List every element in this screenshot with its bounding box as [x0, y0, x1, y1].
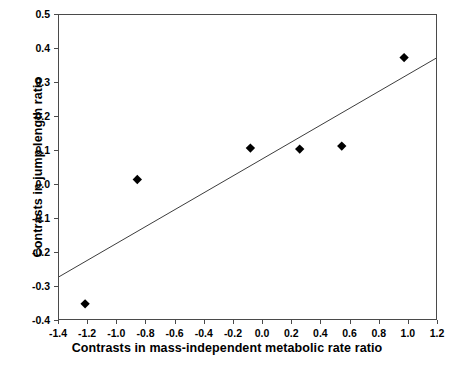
x-tick-mark [204, 320, 205, 324]
y-tick-label: 0.5 [8, 9, 50, 20]
x-tick-label: 0.6 [342, 328, 357, 339]
x-tick-mark [145, 320, 146, 324]
x-tick-mark [175, 320, 176, 324]
data-points [80, 53, 408, 309]
x-tick-label: -0.4 [195, 328, 213, 339]
x-tick-label: 0.4 [313, 328, 328, 339]
x-tick-mark [437, 320, 438, 324]
x-tick-mark [350, 320, 351, 324]
y-tick-mark [54, 14, 58, 15]
y-tick-mark [54, 48, 58, 49]
x-tick-label: -1.4 [49, 328, 67, 339]
scatter-chart: -0.4-0.3-0.2-0.10.00.10.20.30.40.5 -1.4-… [0, 0, 454, 365]
y-tick-mark [54, 252, 58, 253]
x-tick-mark [262, 320, 263, 324]
y-axis-title: Contrasts in jump length ratio [31, 47, 45, 287]
data-point [399, 53, 408, 62]
data-point [80, 299, 89, 308]
trendline [59, 58, 436, 277]
x-tick-mark [379, 320, 380, 324]
x-tick-mark [233, 320, 234, 324]
x-tick-label: 1.0 [401, 328, 416, 339]
x-tick-mark [87, 320, 88, 324]
data-point [295, 144, 304, 153]
x-tick-label: 0.0 [255, 328, 270, 339]
y-tick-label: -0.4 [8, 315, 50, 326]
y-tick-mark [54, 150, 58, 151]
plot-area [58, 14, 437, 320]
x-tick-label: -1.2 [78, 328, 96, 339]
x-tick-label: 1.2 [430, 328, 445, 339]
y-tick-mark [54, 184, 58, 185]
y-tick-mark [54, 82, 58, 83]
plot-canvas [59, 15, 436, 319]
data-point [133, 175, 142, 184]
x-tick-label: -0.8 [136, 328, 154, 339]
y-tick-mark [54, 116, 58, 117]
x-tick-mark [58, 320, 59, 324]
x-axis-title: Contrasts in mass-independent metabolic … [0, 341, 454, 355]
x-tick-mark [116, 320, 117, 324]
x-tick-mark [408, 320, 409, 324]
x-tick-label: -0.6 [166, 328, 184, 339]
x-tick-label: 0.8 [371, 328, 386, 339]
x-tick-mark [291, 320, 292, 324]
x-tick-label: -0.2 [224, 328, 242, 339]
data-point [246, 143, 255, 152]
x-tick-label: -1.0 [107, 328, 125, 339]
trendline-path [59, 58, 436, 277]
x-tick-label: 0.2 [284, 328, 299, 339]
x-tick-mark [320, 320, 321, 324]
data-point [337, 141, 346, 150]
y-tick-mark [54, 286, 58, 287]
y-tick-mark [54, 218, 58, 219]
